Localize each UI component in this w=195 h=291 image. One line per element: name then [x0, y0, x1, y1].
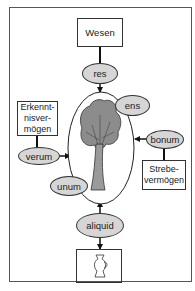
bonum-label: bonum — [150, 134, 179, 145]
res-oval: res — [82, 63, 118, 84]
wesen-box: Wesen — [77, 18, 123, 47]
strebevermoegen-box: Strebe- vermögen — [142, 160, 186, 190]
bonum-oval: bonum — [146, 130, 184, 149]
verum-oval: verum — [18, 147, 60, 165]
aliquid-label: aliquid — [86, 220, 113, 231]
ens-oval: ens — [115, 95, 150, 116]
aliquid-oval: aliquid — [76, 213, 124, 238]
diagram-canvas: Wesen Erkennt- nisver- mögen Strebe- ver… — [0, 0, 195, 291]
erkenntnisvermoegen-box: Erkennt- nisver- mögen — [17, 101, 58, 136]
ens-label: ens — [125, 100, 140, 111]
strebevermoegen-label: Strebe- vermögen — [144, 164, 184, 186]
vase-box — [76, 249, 122, 283]
verum-label: verum — [26, 151, 52, 162]
res-label: res — [93, 68, 106, 79]
unum-label: unum — [57, 181, 81, 192]
unum-oval: unum — [50, 176, 88, 196]
erkenntnisvermoegen-label: Erkennt- nisver- mögen — [20, 102, 54, 135]
wesen-label: Wesen — [85, 27, 114, 38]
